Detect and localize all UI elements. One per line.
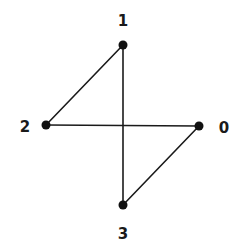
node-2 [42,121,51,130]
node-1 [119,41,128,50]
graph-diagram: 0123 [0,0,241,251]
node-label-2: 2 [20,118,30,136]
edges-group [46,45,199,205]
node-label-1: 1 [118,12,128,30]
node-label-3: 3 [118,225,128,243]
edge-2-0 [46,125,199,126]
edge-0-3 [123,126,199,205]
node-3 [119,201,128,210]
node-0 [195,122,204,131]
edge-1-2 [46,45,123,125]
node-label-0: 0 [219,119,229,137]
